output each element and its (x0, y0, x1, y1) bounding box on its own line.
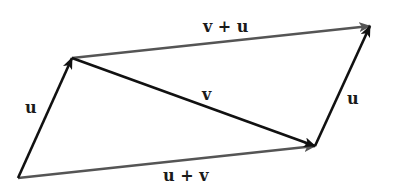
label-v-plus-u: v + u (202, 17, 249, 36)
vector-v-diagonal-arrow (72, 58, 315, 146)
label-u-left: u (25, 98, 37, 117)
label-u-plus-v: u + v (163, 166, 209, 184)
vector-u-right-arrow (315, 26, 370, 146)
label-u-right: u (347, 89, 359, 108)
label-v-diagonal: v (201, 85, 212, 104)
vector-u-left-arrow (18, 58, 72, 178)
vector-addition-diagram: v + u u + v u v u (0, 0, 394, 184)
